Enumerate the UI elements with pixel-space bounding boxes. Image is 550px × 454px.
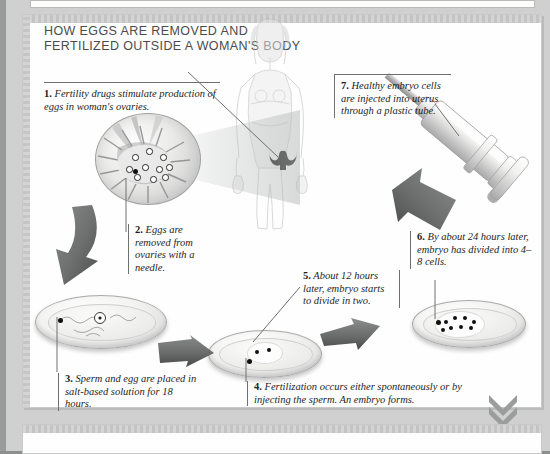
egg: [150, 176, 157, 183]
embryo-cell: [469, 326, 473, 330]
embryo-cell: [441, 328, 445, 332]
step-4-number: 4.: [254, 381, 262, 392]
egg: [126, 166, 133, 173]
step-5-text: About 12 hours later, embryo starts to d…: [303, 270, 384, 306]
step-2-eggs-removed: 2. Eggs are removed from ovaries with a …: [128, 224, 207, 274]
double-chevron-down-icon[interactable]: [488, 393, 518, 427]
step-5-number: 5.: [303, 270, 311, 281]
egg: [166, 164, 173, 171]
step-2-text: Eggs are removed from ovaries with a nee…: [135, 224, 195, 273]
egg: [146, 148, 153, 155]
next-panel-top-border: [23, 425, 541, 433]
embryo-cell: [255, 350, 259, 354]
previous-panel-strip: [30, 0, 535, 8]
embryo-cell: [449, 326, 453, 330]
dish-callout-dot: [247, 359, 252, 364]
egg: [132, 154, 139, 161]
ovary-callout-dot: [133, 169, 138, 174]
arrow-up-left-to-syringe: [390, 168, 460, 234]
panel-left-border: [23, 15, 30, 407]
dish-callout-dot: [58, 318, 63, 323]
petri-dish-sperm-and-egg: [35, 295, 167, 349]
arrow-right-dish-3-to-4: [158, 333, 214, 373]
step-6-number: 6.: [417, 231, 425, 242]
step-5-embryo-divides: 5. About 12 hours later, embryo starts t…: [303, 270, 400, 308]
arrow-curved-down-left: [48, 205, 108, 290]
step-3-number: 3.: [65, 373, 73, 384]
egg: [156, 166, 163, 173]
dish-callout-dot: [436, 320, 441, 325]
petri-dish-two-cell-embryo: [208, 330, 322, 378]
egg: [134, 174, 141, 181]
egg: [162, 174, 169, 181]
embryo-cell: [267, 348, 271, 352]
embryo-cell: [453, 316, 457, 320]
arrow-right-dish-5-to-6: [320, 312, 382, 356]
embryo-cell: [463, 316, 467, 320]
step-3-sperm-and-egg: 3. Sperm and egg are placed in salt-base…: [58, 373, 199, 411]
step-3-text: Sperm and egg are placed in salt-based s…: [65, 373, 196, 409]
step-1-fertility-drugs: 1. Fertility drugs stimulate production …: [44, 82, 220, 113]
step-7-text: Healthy embryo cells are injected into u…: [341, 80, 441, 116]
step-7-injected-into-uterus: 7. Healthy embryo cells are injected int…: [334, 74, 451, 118]
step-2-number: 2.: [135, 224, 143, 235]
step-7-number: 7.: [341, 80, 349, 91]
step-6-text: By about 24 hours later, embryo has divi…: [417, 231, 531, 267]
egg: [160, 154, 167, 161]
petri-dish-multi-cell-embryo: [412, 300, 526, 348]
step-1-text: Fertility drugs stimulate production of …: [44, 88, 216, 112]
step-1-number: 1.: [44, 88, 52, 99]
step-6-four-to-eight-cells: 6. By about 24 hours later, embryo has d…: [410, 231, 533, 269]
embryo-blob: [247, 342, 283, 364]
embryo-cell: [472, 320, 476, 324]
embryo-cell: [444, 320, 448, 324]
ovary-follicle-magnified: [95, 113, 201, 205]
step-4-text: Fertilization occurs either spontaneousl…: [254, 381, 462, 405]
next-panel: [22, 424, 542, 454]
embryo-cell: [459, 325, 463, 329]
egg: [142, 164, 149, 171]
step-4-fertilization: 4. Fertilization occurs either spontaneo…: [247, 381, 462, 406]
